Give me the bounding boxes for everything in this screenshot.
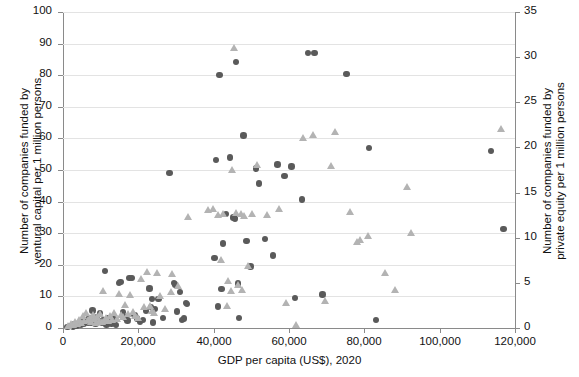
data-point-circle: [274, 161, 280, 167]
data-point-circle: [117, 279, 123, 285]
data-point-triangle: [219, 210, 227, 217]
data-point-circle: [216, 72, 222, 78]
y-axis-right-tick: [515, 57, 520, 58]
data-point-circle: [102, 268, 108, 274]
data-point-circle: [270, 252, 276, 258]
data-point-triangle: [224, 277, 232, 284]
data-point-triangle: [381, 269, 389, 276]
data-point-circle: [150, 319, 156, 325]
data-point-triangle: [244, 262, 252, 269]
data-point-triangle: [263, 211, 271, 218]
y-axis-left-tick-label: 30: [18, 225, 52, 237]
data-point-circle: [311, 50, 317, 56]
data-point-triangle: [282, 299, 290, 306]
data-point-circle: [236, 315, 242, 321]
y-axis-left-tick-label: 100: [18, 4, 52, 16]
y-axis-left-tick-label: 90: [18, 36, 52, 48]
y-axis-left-tick-label: 80: [18, 67, 52, 79]
y-axis-left-tick-label: 60: [18, 130, 52, 142]
data-point-triangle: [238, 286, 246, 293]
data-point-circle: [177, 289, 183, 295]
data-point-circle: [218, 286, 224, 292]
x-axis-tick: [440, 328, 441, 333]
scatter-chart: Number of companies funded by ventural c…: [0, 0, 579, 377]
data-point-circle: [488, 148, 494, 154]
y-axis-right-tick-label: 0: [524, 320, 558, 332]
data-point-triangle: [391, 286, 399, 293]
y-axis-right-tick: [515, 193, 520, 194]
data-point-triangle: [497, 125, 505, 132]
data-point-triangle: [253, 161, 261, 168]
data-point-triangle: [228, 166, 236, 173]
data-point-circle: [181, 315, 187, 321]
data-point-circle: [288, 163, 294, 169]
y-axis-right-tick: [515, 102, 520, 103]
data-point-circle: [184, 301, 190, 307]
data-point-circle: [292, 295, 298, 301]
x-axis-tick: [214, 328, 215, 333]
data-point-circle: [215, 303, 221, 309]
x-axis-tick-label: 20,000: [103, 335, 173, 347]
x-axis-tick-label: 100,000: [405, 335, 475, 347]
data-point-triangle: [292, 321, 300, 328]
y-axis-right-tick: [515, 147, 520, 148]
x-axis-tick-label: 0: [28, 335, 98, 347]
y-axis-right-tick: [515, 238, 520, 239]
data-point-triangle: [327, 162, 335, 169]
data-point-circle: [343, 71, 349, 77]
data-point-triangle: [240, 212, 248, 219]
data-point-triangle: [115, 290, 123, 297]
data-point-circle: [220, 240, 226, 246]
y-axis-right-tick: [515, 12, 520, 13]
data-point-triangle: [143, 268, 151, 275]
data-point-triangle: [99, 287, 107, 294]
y-axis-left-tick-label: 10: [18, 288, 52, 300]
data-point-triangle: [309, 131, 317, 138]
x-axis-tick-label: 120,000: [480, 335, 550, 347]
y-axis-right-title: Number of companies funded by private eq…: [541, 46, 567, 296]
data-point-triangle: [331, 128, 339, 135]
x-axis-tick: [138, 328, 139, 333]
data-point-triangle: [223, 302, 231, 309]
data-point-circle: [160, 315, 166, 321]
data-point-triangle: [230, 44, 238, 51]
y-axis-right-tick-label: 5: [524, 275, 558, 287]
y-axis-right-title-line1: Number of companies funded by: [541, 46, 554, 296]
data-point-circle: [129, 275, 135, 281]
x-axis-tick: [364, 328, 365, 333]
y-axis-left-tick-label: 70: [18, 99, 52, 111]
data-point-triangle: [174, 282, 182, 289]
data-point-circle: [500, 226, 506, 232]
data-point-triangle: [275, 205, 283, 212]
y-axis-right-tick-label: 20: [524, 139, 558, 151]
y-axis-right-line: [515, 12, 516, 329]
data-point-circle: [299, 196, 305, 202]
data-point-triangle: [126, 291, 134, 298]
data-point-triangle: [364, 232, 372, 239]
data-point-triangle: [356, 236, 364, 243]
x-axis-tick-label: 60,000: [254, 335, 324, 347]
data-point-triangle: [167, 288, 175, 295]
y-axis-left-tick-label: 0: [18, 320, 52, 332]
data-point-triangle: [137, 275, 145, 282]
y-axis-right-title-line2: private equity per 1 million persons: [554, 46, 567, 296]
data-point-triangle: [168, 270, 176, 277]
data-point-circle: [166, 170, 172, 176]
data-point-circle: [213, 157, 219, 163]
y-axis-right-tick-label: 10: [524, 230, 558, 242]
y-axis-left-tick-label: 50: [18, 162, 52, 174]
y-axis-right-tick-label: 30: [524, 49, 558, 61]
data-point-triangle: [153, 269, 161, 276]
data-point-circle: [366, 145, 372, 151]
x-axis-title: GDP per capita (US$), 2020: [0, 354, 579, 366]
y-axis-left-tick-label: 20: [18, 257, 52, 269]
data-point-triangle: [346, 208, 354, 215]
y-axis-left-tick-label: 40: [18, 194, 52, 206]
data-point-triangle: [134, 314, 142, 321]
data-point-triangle: [184, 213, 192, 220]
data-point-triangle: [121, 301, 129, 308]
data-point-circle: [233, 59, 239, 65]
data-point-circle: [227, 154, 233, 160]
data-point-triangle: [321, 297, 329, 304]
data-point-triangle: [299, 134, 307, 141]
